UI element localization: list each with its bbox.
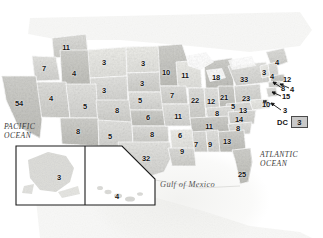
hawaii-value: 4 xyxy=(115,192,119,201)
state-value-ga: 13 xyxy=(223,137,231,146)
state-value-ia: 7 xyxy=(170,91,174,100)
state-value-wy: 3 xyxy=(102,86,106,95)
pacific-ocean-line1: PACIFIC xyxy=(4,122,35,131)
state-value-ar: 6 xyxy=(178,131,182,140)
electoral-college-map: 1133107433571118544586112212212333858632… xyxy=(0,0,323,238)
state-value-nv: 4 xyxy=(49,94,53,103)
state-value-ks: 6 xyxy=(146,113,150,122)
state-value-nh: 4 xyxy=(270,72,274,81)
state-value-nc: 14 xyxy=(235,115,243,124)
state-value-ri: 4 xyxy=(290,85,294,94)
state-value-de: 3 xyxy=(283,106,287,115)
state-value-me: 4 xyxy=(275,58,279,67)
state-value-la: 9 xyxy=(180,147,184,156)
state-value-nm: 5 xyxy=(108,132,112,141)
state-value-nd: 3 xyxy=(141,59,145,68)
state-value-wi: 11 xyxy=(181,71,189,80)
state-value-ms: 7 xyxy=(194,140,198,149)
atlantic-ocean-label: ATLANTICOCEAN xyxy=(260,150,298,169)
state-value-tx: 32 xyxy=(142,154,150,163)
state-value-co: 8 xyxy=(115,106,119,115)
state-value-ky: 8 xyxy=(215,109,219,118)
atlantic-ocean-line1: ATLANTIC xyxy=(260,150,298,159)
atlantic-ocean-line2: OCEAN xyxy=(260,159,298,168)
state-value-or: 7 xyxy=(42,64,46,73)
state-value-nj: 15 xyxy=(282,92,290,101)
state-value-mn: 10 xyxy=(162,68,170,77)
inset-frame xyxy=(0,0,323,238)
state-value-md: 10 xyxy=(262,100,270,109)
state-value-al: 9 xyxy=(208,140,212,149)
state-value-il: 22 xyxy=(191,96,199,105)
state-value-fl: 25 xyxy=(238,170,246,179)
dc-value-box: 3 xyxy=(291,116,308,128)
gulf-of-mexico-line1: Gulf of Mexico xyxy=(160,180,215,190)
state-value-ca: 54 xyxy=(15,99,23,108)
state-value-mi: 18 xyxy=(212,73,220,82)
state-value-az: 8 xyxy=(76,127,80,136)
state-value-id: 4 xyxy=(72,69,76,78)
dc-callout: DC 3 xyxy=(277,116,308,128)
state-value-wa: 11 xyxy=(62,43,70,52)
pacific-ocean-label: PACIFICOCEAN xyxy=(4,122,35,141)
pacific-ocean-line2: OCEAN xyxy=(4,131,35,140)
state-value-sc: 8 xyxy=(236,124,240,133)
state-value-ut: 5 xyxy=(83,102,87,111)
state-value-oh: 21 xyxy=(220,93,228,102)
state-value-mo: 11 xyxy=(174,112,182,121)
state-value-va: 13 xyxy=(239,106,247,115)
state-value-vt: 3 xyxy=(262,68,266,77)
state-value-pa: 23 xyxy=(242,94,250,103)
state-value-ok: 8 xyxy=(150,130,154,139)
state-value-tn: 11 xyxy=(205,122,213,131)
state-value-sd: 3 xyxy=(140,79,144,88)
dc-label: DC xyxy=(277,118,288,127)
gulf-of-mexico-label: Gulf of Mexico xyxy=(160,180,215,190)
state-value-wv: 5 xyxy=(231,102,235,111)
state-value-ne: 5 xyxy=(138,96,142,105)
state-value-ny: 33 xyxy=(240,75,248,84)
state-value-ma: 12 xyxy=(283,75,291,84)
alaska-value: 3 xyxy=(57,173,61,182)
state-value-mt: 3 xyxy=(102,58,106,67)
state-value-in: 12 xyxy=(207,97,215,106)
